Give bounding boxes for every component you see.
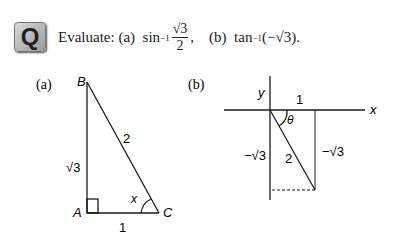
figure-b-axes xyxy=(224,76,365,200)
vertex-b: B xyxy=(77,74,86,89)
side-bc: 2 xyxy=(123,131,130,146)
vertex-a: A xyxy=(72,205,82,220)
side-ab: √3 xyxy=(66,160,80,175)
figures: (a) B A C x 2 √3 1 (b) y x θ 1 2 −√3 −√3 xyxy=(0,0,396,244)
side-ac: 1 xyxy=(119,220,126,235)
y-axis-label: y xyxy=(257,85,266,100)
figure-a-label: (a) xyxy=(36,77,52,93)
figure-a-triangle xyxy=(87,82,159,213)
side-hyp: 2 xyxy=(285,151,292,166)
vertex-c: C xyxy=(163,205,173,220)
angle-theta: θ xyxy=(287,113,294,127)
angle-x: x xyxy=(130,192,138,206)
figure-b-label: (b) xyxy=(188,77,205,93)
side-top: 1 xyxy=(296,92,303,107)
side-left: −√3 xyxy=(244,148,266,163)
side-right: −√3 xyxy=(322,144,344,159)
x-axis-label: x xyxy=(369,102,377,117)
